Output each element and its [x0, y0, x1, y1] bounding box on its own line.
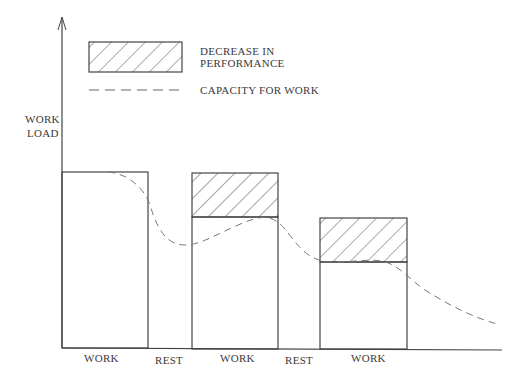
work-block-2	[192, 217, 278, 349]
phase-label-work-3: WORK	[351, 352, 386, 364]
phase-label-work-1: WORK	[84, 352, 119, 364]
y-axis-label-2: LOAD	[27, 127, 59, 139]
legend-capacity-label: CAPACITY FOR WORK	[200, 84, 319, 96]
work-block-3	[320, 262, 407, 349]
capacity-curve	[108, 172, 497, 324]
work-block-2-decrease	[192, 173, 278, 217]
phase-label-work-2: WORK	[220, 352, 255, 364]
work-block-1	[62, 172, 148, 348]
legend-hatch-swatch	[89, 42, 182, 72]
phase-label-rest-1: REST	[155, 354, 183, 366]
phase-label-rest-2: REST	[285, 354, 313, 366]
legend-decrease-label-2: PERFORMANCE	[200, 57, 285, 69]
work-block-3-decrease	[320, 218, 407, 262]
legend-decrease-label-1: DECREASE IN	[200, 45, 275, 57]
y-axis-label-1: WORK	[25, 113, 60, 125]
